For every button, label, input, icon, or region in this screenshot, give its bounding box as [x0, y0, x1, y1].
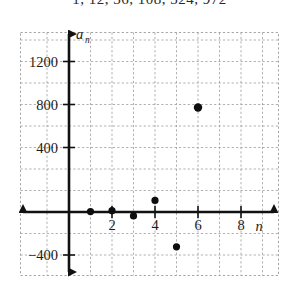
x-tick-label-4: 4 — [151, 217, 159, 233]
data-point-n6 — [194, 103, 202, 111]
x-tick-label-6: 6 — [194, 217, 201, 233]
y-axis-label-subscript: n — [85, 35, 90, 45]
plot-frame — [21, 33, 279, 276]
x-tick-label-2: 2 — [108, 217, 115, 233]
y-tick-label-1200: 1200 — [29, 54, 58, 70]
x-tick-label-8: 8 — [237, 217, 244, 233]
data-point-n3 — [130, 212, 137, 219]
figure-container: 1, 12, 36, 108, 324, 972 — [0, 0, 299, 287]
data-point-n4 — [151, 197, 158, 204]
data-points — [87, 103, 202, 250]
scatter-plot: 1200 800 400 −400 2 4 6 8 a n n — [0, 0, 299, 287]
y-tick-label-minus-400: −400 — [28, 247, 58, 263]
y-tick-label-400: 400 — [36, 140, 58, 156]
data-point-n2 — [108, 207, 115, 214]
y-tick-label-800: 800 — [36, 97, 58, 113]
data-point-n5 — [173, 243, 180, 250]
data-point-n1 — [87, 208, 94, 215]
x-axis-label: n — [255, 218, 262, 234]
vertical-gridlines — [47, 33, 263, 276]
y-axis-label: a — [76, 26, 83, 42]
